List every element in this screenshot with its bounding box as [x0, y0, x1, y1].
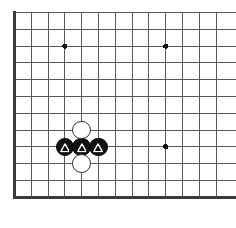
triangle-marker-icon: [94, 143, 104, 153]
star-point-upper-left: [62, 44, 67, 49]
triangle-marker-shape: [94, 143, 103, 151]
go-board-grid: [0, 0, 236, 228]
triangle-marker-icon: [60, 143, 70, 153]
triangle-marker-shape: [77, 143, 86, 151]
black-stone-right: [89, 138, 108, 157]
triangle-marker-shape: [60, 143, 69, 151]
star-point-lower-right: [163, 144, 168, 149]
triangle-marker-icon: [77, 143, 87, 153]
star-point-upper-right: [163, 44, 168, 49]
go-board-diagram: [0, 0, 236, 228]
